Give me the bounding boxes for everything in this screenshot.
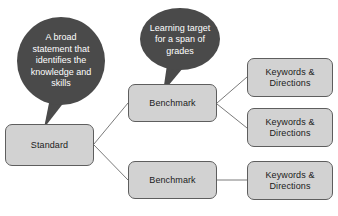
benchmark-callout-ellipse (140, 8, 220, 70)
node-keywords-directions-3[interactable]: Keywords & Directions (247, 161, 333, 200)
node-standard-label: Standard (31, 140, 68, 151)
node-benchmark-bottom-label: Benchmark (149, 175, 195, 186)
diagram-canvas: A broad statement that identifies the kn… (0, 0, 338, 216)
benchmark-callout-bubble (140, 8, 220, 92)
node-keywords-directions-2[interactable]: Keywords & Directions (247, 108, 333, 147)
connector-benchmark-top-to-keywords-2 (217, 104, 247, 128)
node-standard[interactable]: Standard (5, 124, 94, 166)
connector-benchmark-top-to-keywords-1 (217, 77, 247, 103)
node-benchmark-top[interactable]: Benchmark (128, 84, 217, 122)
standard-callout-bubble (17, 17, 105, 128)
connector-standard-to-benchmark-top (94, 103, 128, 144)
standard-callout-circle (17, 17, 105, 105)
node-keywords-directions-3-label: Keywords & Directions (265, 170, 314, 192)
node-benchmark-bottom[interactable]: Benchmark (128, 161, 217, 199)
node-benchmark-top-label: Benchmark (149, 98, 195, 109)
connector-standard-to-benchmark-bottom (94, 145, 128, 180)
node-keywords-directions-1-label: Keywords & Directions (265, 67, 314, 89)
node-keywords-directions-2-label: Keywords & Directions (265, 117, 314, 139)
node-keywords-directions-1[interactable]: Keywords & Directions (247, 58, 333, 97)
